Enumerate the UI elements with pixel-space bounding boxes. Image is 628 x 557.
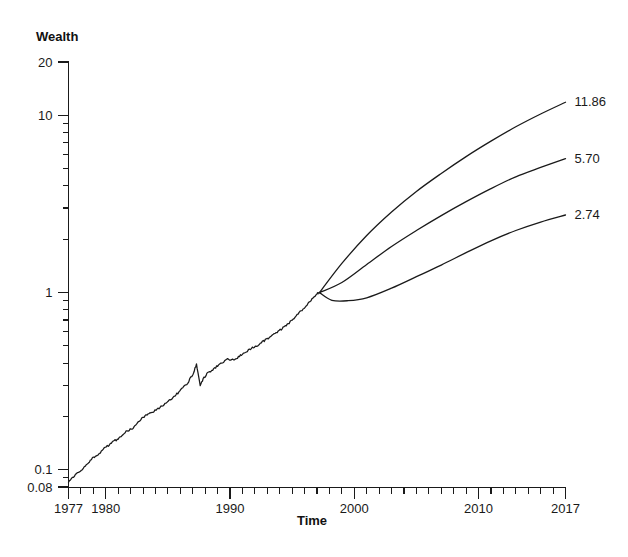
historical-wealth-line — [69, 293, 320, 483]
chart-canvas: 201010.10.08 197719801990200020102017 11… — [0, 0, 628, 557]
projection-low-line — [319, 215, 565, 301]
endpoint-label-mid: 5.70 — [575, 151, 600, 166]
y-axis-title: Wealth — [36, 29, 78, 44]
x-tick-label: 2010 — [464, 501, 493, 516]
x-tick-label: 1977 — [54, 501, 83, 516]
y-tick-label: 1 — [45, 285, 52, 300]
y-tick-label: 0.1 — [34, 462, 52, 477]
y-axis-ticks — [58, 62, 69, 487]
data-series-group — [69, 102, 566, 482]
y-tick-label: 0.08 — [27, 480, 52, 495]
y-axis-group: 201010.10.08 — [27, 55, 68, 495]
x-axis-group: 197719801990200020102017 — [54, 488, 580, 517]
endpoint-annotations: 11.86 5.70 2.74 — [575, 94, 607, 222]
endpoint-label-high: 11.86 — [575, 94, 607, 109]
x-axis-title: Time — [297, 513, 327, 528]
y-tick-label: 20 — [38, 55, 52, 70]
x-tick-label: 1980 — [91, 501, 120, 516]
endpoint-label-low: 2.74 — [575, 207, 600, 222]
y-axis-tick-labels: 201010.10.08 — [27, 55, 52, 495]
x-tick-label: 2017 — [551, 501, 580, 516]
wealth-over-time-chart: 201010.10.08 197719801990200020102017 11… — [0, 0, 628, 557]
x-axis-ticks — [69, 488, 566, 500]
y-tick-label: 10 — [38, 108, 52, 123]
x-tick-label: 2000 — [340, 501, 369, 516]
x-tick-label: 1990 — [216, 501, 245, 516]
